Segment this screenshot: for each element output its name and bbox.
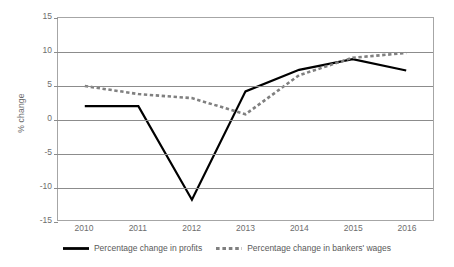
y-axis-tick-labels: 151050-5-10-15 [22,0,52,267]
y-axis-tick-label: -10 [26,182,52,191]
x-axis-tick-label: 2016 [387,223,427,233]
legend-item-1[interactable]: Percentage change in profits [63,243,202,253]
y-axis-tick-mark [54,154,58,155]
x-axis-tick-label: 2010 [64,223,104,233]
series-line-1 [85,59,406,200]
chart-legend: Percentage change in profitsPercentage c… [0,243,454,253]
x-axis-tick-label: 2015 [333,223,373,233]
series-line-2 [85,53,406,114]
y-axis-tick-label: 10 [26,46,52,55]
y-axis-tick-label: 5 [26,80,52,89]
gridline [58,154,433,155]
dashed-line-swatch [216,244,242,253]
x-axis-tick-label: 2011 [118,223,158,233]
y-axis-tick-label: 15 [26,12,52,21]
legend-label: Percentage change in bankers' wages [247,243,391,253]
x-axis-tick-label: 2014 [279,223,319,233]
y-axis-tick-mark [54,120,58,121]
x-axis-tick-labels: 2010201120122013201420152016 [57,223,434,237]
y-axis-tick-label: -5 [26,148,52,157]
line-chart: % change 151050-5-10-15 2010201120122013… [0,0,454,267]
x-axis-tick-label: 2013 [226,223,266,233]
legend-item-2[interactable]: Percentage change in bankers' wages [216,243,391,253]
solid-line-swatch [63,244,89,253]
x-axis-tick-label: 2012 [172,223,212,233]
gridline [58,188,433,189]
y-axis-tick-mark [54,18,58,19]
y-axis-tick-mark [54,52,58,53]
series-layer [58,18,433,220]
plot-area [57,17,434,221]
gridline [58,120,433,121]
y-axis-tick-mark [54,188,58,189]
gridline [58,86,433,87]
y-axis-tick-label: -15 [26,216,52,225]
legend-label: Percentage change in profits [94,243,202,253]
y-axis-tick-label: 0 [26,114,52,123]
y-axis-tick-mark [54,86,58,87]
gridline [58,52,433,53]
